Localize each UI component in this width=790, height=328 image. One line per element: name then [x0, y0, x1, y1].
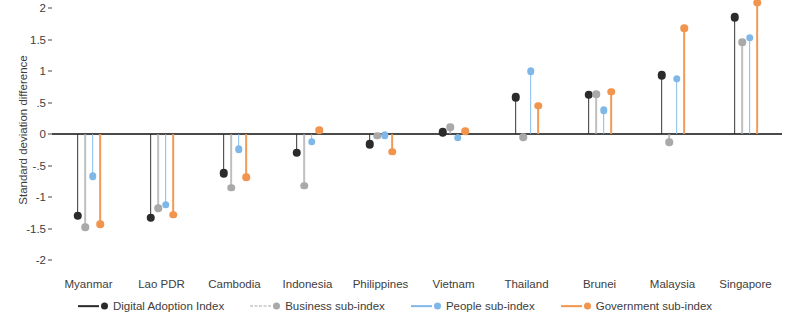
data-point[interactable]	[219, 169, 228, 178]
legend-item-business-sub-index[interactable]: Business sub-index	[250, 300, 385, 312]
legend-line	[78, 305, 99, 307]
legend-item-digital-adoption-index[interactable]: Digital Adoption Index	[78, 300, 224, 312]
data-point[interactable]	[89, 172, 97, 180]
data-stem	[734, 17, 736, 134]
data-point[interactable]	[373, 132, 381, 140]
data-point[interactable]	[461, 128, 469, 136]
data-point[interactable]	[154, 205, 162, 213]
legend-swatch	[561, 301, 591, 311]
data-point[interactable]	[73, 212, 82, 221]
data-point[interactable]	[592, 91, 600, 99]
data-point[interactable]	[308, 138, 316, 146]
data-point[interactable]	[235, 145, 243, 153]
data-point[interactable]	[657, 71, 666, 80]
data-point[interactable]	[600, 106, 608, 114]
data-point[interactable]	[730, 13, 739, 22]
legend-label: Digital Adoption Index	[113, 300, 224, 312]
data-point[interactable]	[315, 126, 323, 134]
legend-swatch	[250, 301, 280, 311]
legend-swatch	[411, 301, 441, 311]
zero-baseline	[52, 133, 782, 135]
data-point[interactable]	[388, 148, 396, 156]
data-stem	[756, 3, 758, 134]
data-stem	[676, 79, 678, 134]
data-stem	[683, 28, 685, 134]
data-stem	[157, 134, 159, 208]
data-point[interactable]	[511, 93, 520, 102]
data-point[interactable]	[665, 138, 673, 146]
y-tick-mark	[48, 260, 52, 261]
data-stem	[172, 134, 174, 215]
legend-line	[561, 305, 582, 307]
y-tick-mark	[48, 228, 52, 229]
data-point[interactable]	[169, 211, 177, 219]
data-point[interactable]	[680, 24, 688, 32]
data-point[interactable]	[446, 123, 454, 131]
data-stem	[303, 134, 305, 186]
data-point[interactable]	[162, 201, 170, 209]
y-tick-mark	[48, 197, 52, 198]
data-point[interactable]	[607, 88, 615, 96]
legend-dot	[273, 303, 280, 310]
data-stem	[749, 38, 751, 134]
data-stem	[661, 75, 663, 134]
y-tick-mark	[48, 102, 52, 103]
legend-label: Government sub-index	[596, 300, 712, 312]
legend-dot	[101, 303, 108, 310]
data-stem	[537, 106, 539, 134]
data-point[interactable]	[146, 214, 155, 223]
data-point[interactable]	[292, 149, 301, 158]
data-stem	[230, 134, 232, 188]
y-tick-mark	[48, 71, 52, 72]
legend-item-government-sub-index[interactable]: Government sub-index	[561, 300, 712, 312]
data-stem	[515, 97, 517, 134]
x-axis-label-malaysia: Malaysia	[650, 278, 695, 290]
data-point[interactable]	[365, 140, 374, 149]
data-point[interactable]	[738, 38, 746, 46]
legend-line	[411, 305, 432, 307]
data-point[interactable]	[227, 184, 235, 192]
x-axis-label-indonesia: Indonesia	[283, 278, 333, 290]
data-point[interactable]	[381, 132, 389, 140]
x-axis-label-myanmar: Myanmar	[65, 278, 113, 290]
legend-swatch	[78, 301, 108, 311]
chart-legend: Digital Adoption IndexBusiness sub-index…	[0, 300, 790, 312]
plot-area: 21.51.50-.5-1-1.5-2	[52, 8, 782, 260]
y-tick-mark	[48, 165, 52, 166]
data-point[interactable]	[534, 102, 542, 110]
data-stem	[84, 134, 86, 227]
legend-dot	[434, 303, 441, 310]
data-point[interactable]	[300, 182, 308, 190]
data-point[interactable]	[746, 34, 754, 42]
y-axis-title: Standard deviation difference	[17, 15, 29, 245]
data-stem	[150, 134, 152, 218]
data-stem	[99, 134, 101, 224]
data-stem	[610, 92, 612, 134]
x-axis-label-thailand: Thailand	[504, 278, 548, 290]
data-point[interactable]	[81, 223, 89, 231]
legend-line	[250, 306, 271, 307]
data-point[interactable]	[242, 174, 250, 182]
legend-label: People sub-index	[446, 300, 535, 312]
x-axis-label-vietnam: Vietnam	[433, 278, 475, 290]
data-stem	[595, 94, 597, 134]
legend-label: Business sub-index	[285, 300, 385, 312]
data-stem	[245, 134, 247, 177]
chart-figure: Standard deviation difference 21.51.50-.…	[0, 0, 790, 328]
x-axis-label-singapore: Singapore	[719, 278, 771, 290]
data-stem	[92, 134, 94, 176]
data-point[interactable]	[519, 133, 527, 141]
legend-dot	[584, 303, 591, 310]
data-point[interactable]	[673, 75, 681, 83]
data-stem	[165, 134, 167, 205]
y-tick-mark	[48, 39, 52, 40]
data-point[interactable]	[96, 220, 104, 228]
legend-item-people-sub-index[interactable]: People sub-index	[411, 300, 535, 312]
data-point[interactable]	[753, 0, 761, 7]
data-stem	[223, 134, 225, 173]
data-point[interactable]	[438, 128, 447, 137]
x-axis-label-lao-pdr: Lao PDR	[138, 278, 185, 290]
x-axis-label-cambodia: Cambodia	[208, 278, 260, 290]
data-point[interactable]	[454, 134, 462, 142]
data-point[interactable]	[527, 67, 535, 75]
